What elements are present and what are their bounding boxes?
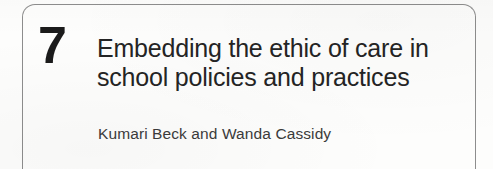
scanned-page: 7 Embedding the ethic of care in school … [0, 0, 493, 169]
chapter-authors: Kumari Beck and Wanda Cassidy [98, 124, 331, 143]
chapter-title-line-2: school policies and practices [97, 63, 477, 92]
chapter-number: 7 [38, 19, 66, 71]
chapter-title: Embedding the ethic of care in school po… [97, 34, 477, 92]
chapter-title-line-1: Embedding the ethic of care in [97, 34, 477, 63]
chapter-heading-block: 7 Embedding the ethic of care in school … [0, 0, 493, 169]
